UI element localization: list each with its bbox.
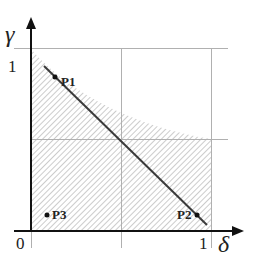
point-label: P2 <box>177 207 191 222</box>
point-label: P3 <box>52 207 67 222</box>
x-axis-label: δ <box>218 231 230 257</box>
point-dot <box>195 213 200 218</box>
y-tick-label: 1 <box>8 57 17 76</box>
x-axis-arrow-icon <box>232 226 244 236</box>
x-tick-label: 1 <box>199 234 208 253</box>
y-axis-label: γ <box>5 21 15 47</box>
origin-label: 0 <box>16 234 25 253</box>
point-dot <box>53 75 58 80</box>
point-label: P1 <box>61 74 75 89</box>
point-dot <box>45 213 50 218</box>
diagram-canvas: γ 1 0 1 δ P1 P2 P3 <box>0 0 253 262</box>
y-axis-arrow-icon <box>26 17 36 29</box>
